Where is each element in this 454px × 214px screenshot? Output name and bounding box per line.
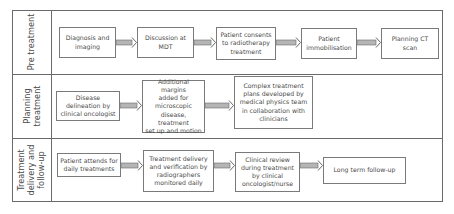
lane-label-divider — [51, 10, 52, 202]
step-patient-attends: Patient attends for daily treatments — [57, 153, 121, 177]
arrow-right-icon — [300, 160, 323, 170]
arrow-right-icon — [116, 37, 137, 47]
lane-label-treatment-delivery: Treatment delivery and follow-up — [17, 145, 47, 196]
lane-planning-treatment: Planning treatment — [12, 74, 51, 138]
arrow-right-icon — [205, 100, 234, 110]
lane-treatment-delivery: Treatment delivery and follow-up — [12, 138, 51, 202]
arrow-right-icon — [120, 100, 142, 110]
step-treatment-delivery-verification: Treatment delivery and verification by r… — [143, 150, 214, 192]
step-planning-ct-scan: Planning CT scan — [381, 28, 439, 59]
step-diagnosis-imaging: Diagnosis and imaging — [59, 27, 116, 58]
lane-label-planning-treatment: Planning treatment — [22, 85, 42, 126]
arrow-right-icon — [194, 37, 216, 47]
step-patient-consents: Patient consents to radiotherapy treatme… — [216, 27, 276, 60]
step-complex-treatment-plans: Complex treatment plans developed by med… — [234, 76, 313, 129]
step-patient-immobilisation: Patient immobilisation — [301, 28, 357, 59]
step-clinical-review: Clinical review during treatment by clin… — [235, 152, 300, 192]
lane-pre-treatment: Pre treatment — [12, 10, 51, 74]
arrow-right-icon — [276, 37, 301, 47]
step-discussion-mdt: Discussion at MDT — [137, 27, 194, 58]
step-disease-delineation: Disease delineation by clinical oncologi… — [56, 91, 120, 121]
arrow-right-icon — [121, 160, 143, 170]
arrow-right-icon — [357, 37, 381, 47]
arrow-right-icon — [214, 160, 235, 170]
step-additional-margins: Additional margins added for microscopic… — [142, 80, 205, 133]
lane-divider-1 — [12, 74, 443, 75]
lane-label-pre-treatment: Pre treatment — [27, 14, 37, 71]
step-long-term-follow-up: Long term follow-up — [323, 157, 406, 184]
lane-divider-2 — [12, 138, 443, 139]
